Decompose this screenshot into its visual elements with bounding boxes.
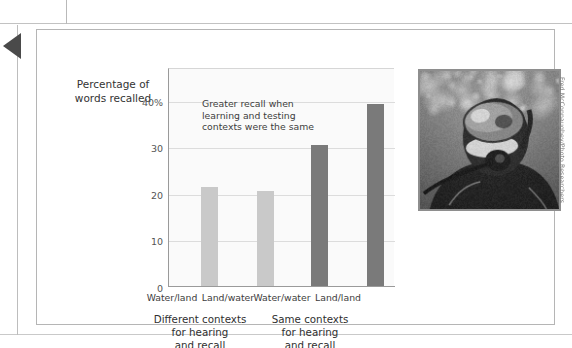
category-label-water-water: Water/water bbox=[253, 292, 310, 303]
x-axis-line bbox=[169, 286, 395, 287]
edge-marker-triangle-icon bbox=[3, 33, 21, 59]
figure-container: Percentage of words recalled 010203040% … bbox=[36, 29, 555, 325]
y-tick-label-20: 20 bbox=[151, 189, 163, 200]
scuba-diver-photo bbox=[418, 69, 561, 211]
scuba-diver-image bbox=[420, 71, 559, 209]
group-label-same-contexts: Same contexts for hearing and recall bbox=[272, 313, 349, 348]
bar-water-land bbox=[201, 187, 218, 287]
bar-chart: 010203040% Greater recall when learning … bbox=[168, 68, 394, 287]
group-label-different-contexts: Different contexts for hearing and recal… bbox=[154, 313, 247, 348]
bar-water-water bbox=[311, 145, 328, 287]
gridline-30 bbox=[169, 148, 395, 149]
y-tick-label-40: 40% bbox=[142, 96, 163, 107]
category-label-land-water: Land/water bbox=[202, 292, 254, 303]
page-rule-top bbox=[0, 23, 572, 24]
bar-land-water bbox=[257, 191, 274, 287]
bar-land-land bbox=[367, 104, 384, 287]
category-label-water-land: Water/land bbox=[147, 292, 198, 303]
photo-credit: Fred McConnaughey/Photo Researchers bbox=[559, 77, 566, 203]
y-tick-label-30: 30 bbox=[151, 143, 163, 154]
y-tick-label-10: 10 bbox=[151, 236, 163, 247]
page-tick-vertical bbox=[66, 0, 67, 24]
category-label-land-land: Land/land bbox=[315, 292, 361, 303]
page-edge-left bbox=[17, 25, 18, 335]
chart-annotation: Greater recall when learning and testing… bbox=[202, 98, 314, 133]
